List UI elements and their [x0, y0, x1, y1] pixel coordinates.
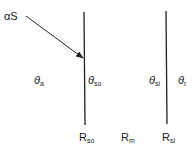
r-m-label: Rm	[121, 131, 135, 147]
absorbed-solar-label: αS	[4, 10, 18, 22]
inner-wall-line	[166, 11, 167, 124]
outer-wall-line	[84, 12, 85, 125]
r-si-label: Rsi	[162, 131, 175, 147]
theta-r-label: θr	[178, 74, 186, 90]
theta-so-label: θso	[88, 74, 101, 90]
theta-si-label: θsi	[149, 74, 160, 90]
r-so-label: Rso	[79, 131, 94, 147]
theta-a-label: θa	[34, 74, 44, 90]
solar-radiation-arrow	[26, 16, 83, 58]
